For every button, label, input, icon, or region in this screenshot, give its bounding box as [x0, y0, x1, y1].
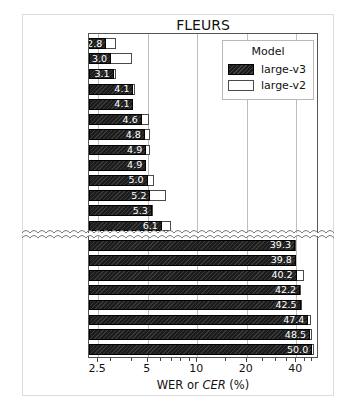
legend-title: Model	[228, 45, 308, 58]
x-tick-label: 5	[143, 363, 150, 375]
bar-row: Telugu39.3	[89, 238, 317, 253]
legend[interactable]: Model large-v3 large-v2	[222, 40, 314, 100]
bar-row: Catalan4.8	[89, 127, 317, 142]
plot-area-bottom: Telugu39.3Maori39.8Nepali40.2Armenian42.…	[88, 236, 318, 358]
x-tick-minor	[131, 358, 132, 361]
chart-figure: FLEURS Spanish2.8Italian3.0Korean3.1Port…	[0, 0, 339, 413]
bar-value-label: 5.3	[133, 206, 148, 216]
x-tick-minor	[286, 358, 287, 361]
x-tick-minor	[275, 358, 276, 361]
x-tick-label: 2.5	[88, 363, 106, 375]
bar-large-v3[interactable]: 4.1	[89, 99, 133, 110]
bar-large-v3[interactable]: 48.5	[89, 329, 310, 340]
x-tick-minor	[180, 358, 181, 361]
bar-row: Armenian42.2	[89, 283, 317, 298]
bar-row: Indonesian6.1	[89, 218, 317, 233]
bar-row: Polish4.6	[89, 112, 317, 127]
bar-row: Punjabi48.5	[89, 327, 317, 342]
bar-large-v3[interactable]: 4.9	[89, 145, 146, 156]
bar-value-label: 6.1	[143, 221, 158, 231]
bar-value-label: 4.6	[123, 115, 138, 125]
bar-value-label: 42.2	[275, 285, 296, 295]
x-tick-minor	[160, 358, 161, 361]
x-axis-label-plain: WER or	[157, 378, 203, 392]
bar-value-label: 3.0	[92, 54, 107, 64]
bar-large-v3[interactable]: 39.3	[89, 240, 295, 251]
x-axis-ticks: 2.55102040	[88, 358, 318, 370]
bar-large-v3[interactable]: 6.1	[89, 221, 162, 232]
bar-large-v3[interactable]: 42.2	[89, 285, 300, 296]
bar-large-v3[interactable]: 50.0	[89, 344, 312, 355]
bar-large-v3[interactable]: 42.5	[89, 300, 301, 311]
bar-row: French5.3	[89, 203, 317, 218]
x-tick-minor	[171, 358, 172, 361]
bar-value-label: 5.2	[131, 191, 146, 201]
bar-value-label: 4.9	[127, 160, 142, 170]
bar-value-label: 39.8	[271, 256, 292, 266]
legend-item-large-v3[interactable]: large-v3	[228, 62, 308, 76]
bar-large-v3[interactable]: 4.6	[89, 114, 142, 125]
legend-item-large-v2[interactable]: large-v2	[228, 78, 308, 92]
x-tick-minor	[225, 358, 226, 361]
bar-large-v3[interactable]: 3.0	[89, 53, 111, 64]
bar-large-v3[interactable]: 4.8	[89, 129, 145, 140]
bar-large-v3[interactable]: 5.3	[89, 205, 152, 216]
bar-value-label: 42.5	[275, 300, 296, 310]
bar-value-label: 47.4	[283, 315, 304, 325]
bar-row: Bengali50.0	[89, 342, 317, 357]
x-axis-label-suffix: (%)	[226, 378, 250, 392]
bar-value-label: 50.0	[287, 345, 308, 355]
bar-value-label: 4.8	[126, 130, 141, 140]
bar-large-v3[interactable]: 3.1	[89, 69, 114, 80]
bar-large-v3[interactable]: 39.8	[89, 255, 296, 266]
x-axis-label: WER or CER (%)	[88, 378, 318, 392]
bar-value-label: 5.0	[129, 176, 144, 186]
x-tick-minor	[189, 358, 190, 361]
bar-large-v3[interactable]: 40.2	[89, 270, 297, 281]
bar-value-label: 4.1	[114, 100, 129, 110]
legend-swatch-large-v3	[228, 64, 254, 75]
legend-label-large-v3: large-v3	[261, 64, 306, 75]
bar-large-v3[interactable]: 5.0	[89, 175, 148, 186]
bar-row: Maori39.8	[89, 253, 317, 268]
x-tick-label: 20	[239, 363, 253, 375]
bar-large-v3[interactable]: 2.8	[89, 38, 106, 49]
bar-row: Nepali40.2	[89, 268, 317, 283]
x-tick-minor	[311, 358, 312, 361]
bar-row: Gujarati47.4	[89, 313, 317, 328]
bar-value-label: 40.2	[271, 270, 292, 280]
x-tick-minor	[304, 358, 305, 361]
x-axis-label-italic: CER	[202, 378, 225, 392]
x-tick-minor	[262, 358, 263, 361]
bar-large-v3[interactable]: 47.4	[89, 315, 308, 326]
bar-value-label: 3.1	[94, 69, 109, 79]
x-tick-label: 10	[189, 363, 203, 375]
x-tick-label: 40	[288, 363, 302, 375]
bar-value-label: 4.9	[127, 145, 142, 155]
bar-row: German4.9	[89, 158, 317, 173]
bar-value-label: 2.8	[88, 39, 102, 49]
chart-title: FLEURS	[88, 16, 318, 34]
bar-value-label: 4.1	[114, 84, 129, 94]
bar-row: Belarusian42.5	[89, 298, 317, 313]
bar-row: Dutch5.2	[89, 188, 317, 203]
x-tick-minor	[110, 358, 111, 361]
bar-row: Japanese4.9	[89, 142, 317, 157]
bar-row: Russian5.0	[89, 173, 317, 188]
legend-label-large-v2: large-v2	[261, 80, 306, 91]
legend-swatch-large-v2	[228, 80, 254, 91]
bar-large-v3[interactable]: 4.9	[89, 160, 146, 171]
bar-value-label: 39.3	[270, 241, 291, 251]
bar-value-label: 48.5	[285, 330, 306, 340]
bar-large-v3[interactable]: 4.1	[89, 84, 133, 95]
bar-large-v3[interactable]: 5.2	[89, 190, 150, 201]
